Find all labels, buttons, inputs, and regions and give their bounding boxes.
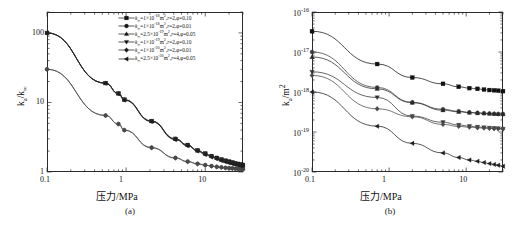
panel-b: ka/m2 压力/MPa (b) k∞=1×10-18m2,r=2,φ=0.10… — [260, 0, 520, 228]
y-tick-label: 10-16 — [279, 7, 309, 18]
circle-marker-icon — [118, 22, 135, 30]
y-tick-label: 10-17 — [279, 47, 309, 58]
y-tick-label: 10-20 — [279, 167, 309, 178]
y-tick-label: 10 — [22, 97, 44, 106]
x-axis-label-b: 压力/MPa — [360, 188, 402, 203]
x-tick-label: 1 — [119, 175, 123, 184]
x-tick-label: 10 — [459, 175, 467, 184]
y-tick-label: 10-18 — [279, 87, 309, 98]
legend-a: k∞=1×10-18m2,r=2,φ=0.10k∞=1×10-18m2,r=2,… — [118, 14, 195, 63]
triangle-down-marker-icon — [118, 38, 135, 46]
y-tick-label: 1 — [22, 167, 44, 176]
y-tick-label: 10-19 — [279, 127, 309, 138]
x-axis-label-a: 压力/MPa — [96, 188, 138, 203]
triangle-up-marker-icon — [118, 30, 135, 38]
panel-caption-b: (b) — [260, 206, 520, 216]
panel-a: ka/k∞ 压力/MPa (a) k∞=1×10-18m2,r=2,φ=0.10… — [0, 0, 260, 228]
x-tick-label: 1 — [382, 175, 386, 184]
square-marker-icon — [118, 14, 135, 22]
x-tick-label: 0.1 — [40, 175, 50, 184]
legend-a-item: k∞=2.5×10-20m2,r=4,φ=0.05 — [118, 54, 195, 62]
diamond-marker-icon — [118, 46, 135, 54]
figure-permeability-vs-pressure: ka/k∞ 压力/MPa (a) k∞=1×10-18m2,r=2,φ=0.10… — [0, 0, 520, 228]
panel-caption-a: (a) — [0, 206, 260, 216]
legend-a-label: k∞=2.5×10-20m2,r=4,φ=0.05 — [135, 52, 195, 65]
y-tick-label: 100 — [22, 28, 44, 37]
x-tick-label: 10 — [198, 175, 206, 184]
triangle-left-marker-icon — [118, 55, 135, 63]
